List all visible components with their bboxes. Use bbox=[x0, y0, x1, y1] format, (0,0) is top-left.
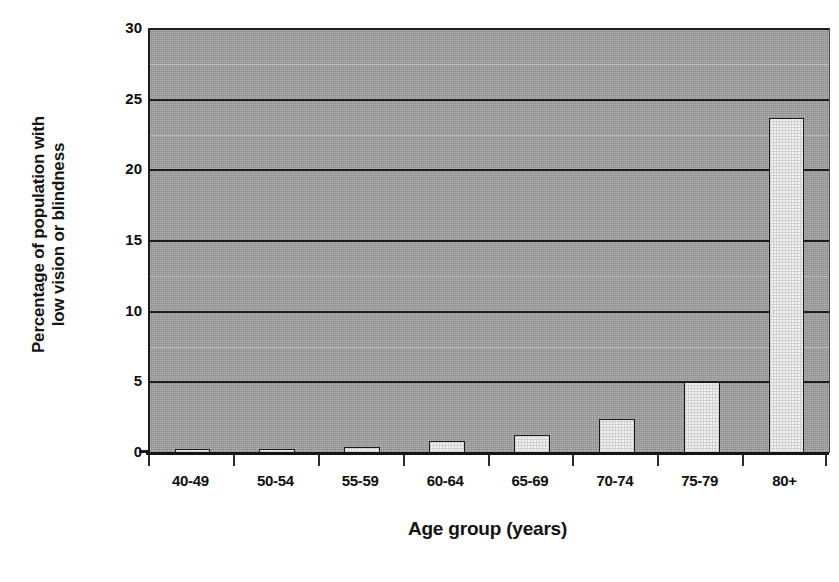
y-axis-title: Percentage of population with low vision… bbox=[0, 0, 96, 470]
x-axis-tick-label: 50-54 bbox=[233, 472, 318, 489]
x-axis-tick bbox=[742, 455, 744, 466]
y-axis-tick-label: 15 bbox=[104, 232, 142, 247]
x-axis-tick-label: 55-59 bbox=[318, 472, 403, 489]
y-axis-tick-label: 5 bbox=[104, 373, 142, 388]
y-axis-tick-labels: 051015202530 bbox=[96, 0, 142, 582]
bar-chart: Percentage of population with low vision… bbox=[0, 0, 839, 582]
x-axis-tick-labels: 40-4950-5455-5960-6465-6970-7475-7980+ bbox=[148, 472, 827, 498]
x-axis-tick bbox=[403, 455, 405, 466]
x-axis-tick-label: 75-79 bbox=[657, 472, 742, 489]
x-axis-tick bbox=[233, 455, 235, 466]
x-axis-tick-label: 70-74 bbox=[572, 472, 657, 489]
bar bbox=[769, 118, 805, 453]
x-axis-tick bbox=[572, 455, 574, 466]
x-axis-tick bbox=[488, 455, 490, 466]
plot-area bbox=[148, 28, 830, 453]
x-axis-title: Age group (years) bbox=[148, 518, 827, 540]
x-axis-tick-label: 40-49 bbox=[148, 472, 233, 489]
x-axis-tick bbox=[657, 455, 659, 466]
bar bbox=[599, 419, 635, 453]
x-axis-tick-label: 60-64 bbox=[403, 472, 488, 489]
x-axis-tick-label: 80+ bbox=[742, 472, 827, 489]
y-axis-title-line2: low vision or blindness bbox=[48, 117, 68, 354]
x-axis-tick bbox=[148, 455, 150, 466]
y-axis-tick-label: 25 bbox=[104, 91, 142, 106]
bar bbox=[684, 382, 720, 453]
y-axis-tick-label: 30 bbox=[104, 20, 142, 35]
x-axis-ticks bbox=[148, 455, 827, 467]
x-axis-tick-label: 65-69 bbox=[488, 472, 573, 489]
y-axis-title-line1: Percentage of population with bbox=[28, 117, 48, 354]
x-axis-tick bbox=[825, 455, 827, 466]
x-axis-tick bbox=[318, 455, 320, 466]
y-axis-tick-label: 0 bbox=[104, 444, 142, 459]
y-axis-tick-label: 10 bbox=[104, 303, 142, 318]
bars-layer bbox=[150, 29, 829, 453]
y-axis-tick-label: 20 bbox=[104, 161, 142, 176]
bar bbox=[514, 435, 550, 453]
